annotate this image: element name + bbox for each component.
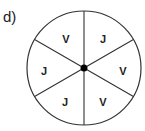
sector-label: V [99,96,107,108]
sector-label: V [119,65,127,77]
sector-label: J [41,65,47,77]
sector-label: V [62,33,70,45]
sector-label: J [100,33,106,45]
spinner-diagram: JVVJJV [0,0,145,131]
center-dot [81,65,88,72]
sector-label: J [62,96,68,108]
